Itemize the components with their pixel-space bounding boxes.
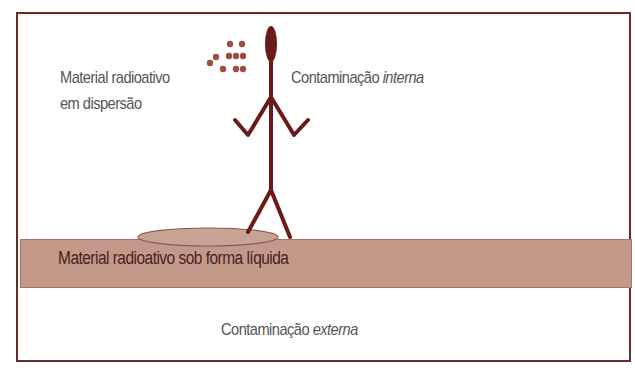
external-emphasis: externa	[313, 320, 358, 339]
radioactive-particles-icon	[207, 41, 246, 72]
diagram-graphics	[0, 0, 635, 373]
dispersion-label-line2: em dispersão	[60, 93, 142, 114]
internal-emphasis: interna	[383, 68, 424, 87]
external-contamination-label: Contaminação externa	[221, 319, 358, 340]
liquid-material-label: Material radioativo sob forma líquida	[58, 248, 288, 269]
dispersion-label-line1: Material radioativo	[60, 67, 170, 88]
liquid-puddle	[138, 228, 278, 246]
external-prefix: Contaminação	[221, 320, 313, 339]
person-figure-icon	[235, 26, 308, 237]
internal-prefix: Contaminação	[291, 68, 383, 87]
internal-contamination-label: Contaminação interna	[291, 67, 424, 88]
